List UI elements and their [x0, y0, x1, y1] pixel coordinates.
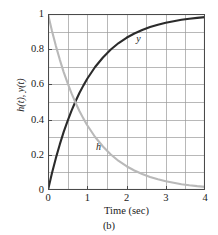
x-tick-label: 0 [36, 192, 60, 204]
figure-panel: h(t), y(t) 00.20.40.60.81 01234 Time (se… [0, 0, 218, 235]
y-tick-label: 1 [16, 9, 44, 19]
plot-frame [49, 15, 205, 190]
x-tick-label: 1 [75, 192, 99, 204]
y-tick-label: 0.8 [16, 44, 44, 54]
x-tick-label: 3 [154, 192, 178, 204]
chart-svg [48, 14, 205, 190]
figure-caption: (b) [0, 220, 218, 231]
x-axis-tick-labels: 01234 [48, 192, 205, 206]
y-curve-label: y [136, 34, 140, 44]
curve-h [48, 14, 205, 187]
y-tick-label: 0.4 [16, 115, 44, 125]
plot-area [48, 14, 205, 190]
curve-y [48, 17, 205, 190]
y-tick-label: 0.6 [16, 79, 44, 89]
y-tick-label: 0.2 [16, 150, 44, 160]
x-axis-label: Time (sec) [48, 205, 205, 216]
y-axis-tick-labels: 00.20.40.60.81 [16, 14, 44, 190]
h-curve-label: h [96, 142, 101, 152]
grid-lines [48, 14, 205, 190]
x-tick-label: 4 [193, 192, 217, 204]
x-tick-label: 2 [115, 192, 139, 204]
